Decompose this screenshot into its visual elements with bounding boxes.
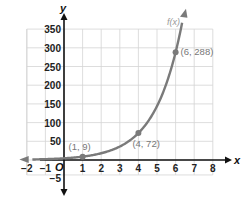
data-point <box>80 154 86 160</box>
function-label: f(x) <box>167 17 180 27</box>
x-tick-label: 1 <box>80 163 86 174</box>
data-point <box>173 49 179 55</box>
data-points: (1, 9)(4, 72)(6, 288) <box>69 46 214 159</box>
y-tick-label: −5 <box>50 173 62 184</box>
y-axis-arrow-icon <box>61 13 68 20</box>
y-tick-label: 350 <box>44 24 61 35</box>
x-tick-label: −2 <box>21 163 33 174</box>
y-axis-arrow-down-icon <box>61 189 68 196</box>
x-axis-label: x <box>233 154 241 166</box>
x-tick-label: 3 <box>117 163 123 174</box>
point-label: (1, 9) <box>69 141 91 152</box>
curve-top-arrow-icon <box>180 9 188 18</box>
data-point <box>135 130 141 136</box>
x-tick-label: 7 <box>191 163 197 174</box>
x-tick-label: 6 <box>173 163 179 174</box>
curve-left-arrow-icon <box>19 156 28 163</box>
origin-label: O <box>55 161 64 173</box>
x-axis-arrow-icon <box>225 157 232 164</box>
y-axis-label: y <box>59 2 67 14</box>
y-tick-label: 250 <box>44 62 61 73</box>
y-tick-label: 50 <box>50 136 62 147</box>
x-tick-label: 2 <box>98 163 104 174</box>
exponential-chart: −2−112345678−550100150200250300350 (1, 9… <box>0 0 248 206</box>
y-tick-label: 200 <box>44 80 61 91</box>
point-label: (6, 288) <box>181 46 214 57</box>
x-tick-label: 4 <box>136 163 142 174</box>
y-tick-label: 150 <box>44 99 61 110</box>
point-label: (4, 72) <box>132 138 159 149</box>
y-tick-label: 100 <box>44 118 61 129</box>
x-tick-label: 8 <box>210 163 216 174</box>
y-tick-label: 300 <box>44 43 61 54</box>
x-tick-label: 5 <box>154 163 160 174</box>
